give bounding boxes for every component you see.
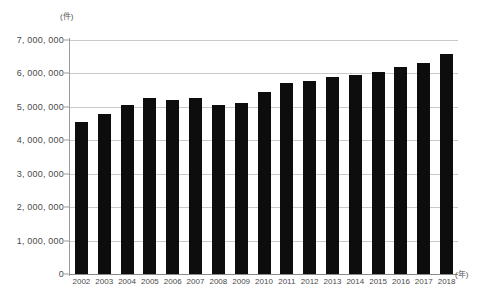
bar-2007 (189, 98, 202, 274)
y-tick-label: 2, 000, 000 (17, 202, 64, 212)
x-tick-label: 2005 (141, 277, 159, 286)
bar-2004 (121, 105, 134, 274)
x-tick-label: 2002 (73, 277, 91, 286)
bar-2010 (258, 92, 271, 274)
y-tick-label: 1, 000, 000 (17, 236, 64, 246)
y-tick-label: 3, 000, 000 (17, 169, 64, 179)
x-tick-label: 2017 (415, 277, 433, 286)
bar-2009 (235, 103, 248, 274)
bar-2012 (303, 81, 316, 274)
bar-2011 (280, 83, 293, 274)
x-tick-label: 2010 (255, 277, 273, 286)
bar-2002 (75, 122, 88, 274)
bar-chart: (件) 01, 000, 0002, 000, 0003, 000, 0004,… (0, 0, 481, 303)
bar-2014 (349, 75, 362, 274)
bar-2016 (394, 67, 407, 274)
y-tick-label: 4, 000, 000 (17, 135, 64, 145)
x-tick-label: 2018 (438, 277, 456, 286)
x-tick-label: 2006 (164, 277, 182, 286)
x-tick-label: 2004 (118, 277, 136, 286)
x-tick-label: 2011 (278, 277, 295, 286)
bar-2003 (98, 114, 111, 274)
y-tick-label: 6, 000, 000 (17, 68, 64, 78)
x-tick-label: 2013 (324, 277, 342, 286)
y-axis-tick-labels: 01, 000, 0002, 000, 0003, 000, 0004, 000… (0, 40, 64, 274)
y-tick-label: 7, 000, 000 (17, 35, 64, 45)
x-tick-label: 2012 (301, 277, 319, 286)
y-tick-mark (64, 207, 69, 208)
y-axis-unit-label: (件) (60, 10, 73, 21)
x-tick-label: 2014 (346, 277, 364, 286)
y-tick-mark (64, 73, 69, 74)
y-tick-mark (64, 173, 69, 174)
y-tick-mark (64, 140, 69, 141)
x-tick-label: 2009 (232, 277, 250, 286)
x-tick-label: 2007 (187, 277, 205, 286)
x-tick-label: 2015 (369, 277, 387, 286)
bar-2017 (417, 63, 430, 274)
gridline-0 (70, 274, 458, 275)
plot-area (70, 40, 458, 274)
bar-2013 (326, 77, 339, 274)
y-tick-label: 5, 000, 000 (17, 102, 64, 112)
y-tick-mark (64, 40, 69, 41)
x-axis-tick-labels: 2002200320042005200620072008200920102011… (70, 277, 458, 291)
y-tick-mark (64, 240, 69, 241)
x-tick-label: 2003 (95, 277, 113, 286)
bar-2015 (372, 72, 385, 274)
bar-2006 (166, 100, 179, 274)
x-axis-unit-label: (年) (455, 268, 468, 279)
bar-2005 (143, 98, 156, 274)
y-tick-mark (64, 274, 69, 275)
bar-2018 (440, 54, 453, 274)
x-tick-label: 2008 (209, 277, 227, 286)
y-tick-mark (64, 106, 69, 107)
x-tick-label: 2016 (392, 277, 410, 286)
bar-2008 (212, 105, 225, 274)
gridline-7000000 (70, 40, 458, 41)
